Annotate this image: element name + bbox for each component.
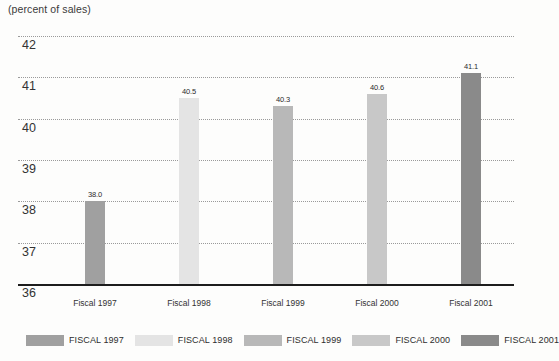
x-axis-line <box>18 284 514 286</box>
legend-swatch <box>135 335 173 346</box>
plot-area: 424140393837 38.040.540.340.641.1 36 <box>0 22 520 290</box>
chart-legend: FISCAL 1997FISCAL 1998FISCAL 1999FISCAL … <box>0 330 520 350</box>
bar[interactable] <box>461 73 481 284</box>
bar[interactable] <box>273 106 293 284</box>
bar-series: 38.040.540.340.641.1 <box>0 22 520 290</box>
legend-swatch <box>461 335 499 346</box>
category-label: Fiscal 2001 <box>449 298 492 308</box>
chart-title: (percent of sales) <box>8 3 91 15</box>
bar-value-label: 40.3 <box>276 95 290 104</box>
bar-value-label: 40.5 <box>182 87 196 96</box>
bar-slot: 38.0 <box>48 22 142 290</box>
legend-item[interactable]: FISCAL 2000 <box>352 335 450 346</box>
legend-item[interactable]: FISCAL 1997 <box>26 335 124 346</box>
bar[interactable] <box>85 201 105 284</box>
legend-label: FISCAL 2001 <box>504 335 559 345</box>
bar-slot: 40.5 <box>142 22 236 290</box>
category-label: Fiscal 1997 <box>73 298 116 308</box>
bar-slot: 40.3 <box>236 22 330 290</box>
category-label: Fiscal 1998 <box>167 298 210 308</box>
category-label: Fiscal 1999 <box>261 298 304 308</box>
legend-item[interactable]: FISCAL 1998 <box>135 335 233 346</box>
bar[interactable] <box>179 98 199 284</box>
bar-value-label: 38.0 <box>88 190 102 199</box>
category-label-slot: Fiscal 1998 <box>142 292 236 310</box>
legend-item[interactable]: FISCAL 2001 <box>461 335 559 346</box>
legend-label: FISCAL 1999 <box>287 335 342 345</box>
legend-label: FISCAL 1998 <box>178 335 233 345</box>
bar[interactable] <box>367 94 387 284</box>
bar-slot: 41.1 <box>424 22 518 290</box>
legend-swatch <box>244 335 282 346</box>
legend-label: FISCAL 2000 <box>395 335 450 345</box>
bar-slot: 40.6 <box>330 22 424 290</box>
bar-value-label: 40.6 <box>370 83 384 92</box>
category-label-slot: Fiscal 2001 <box>424 292 518 310</box>
legend-swatch <box>26 335 64 346</box>
category-label-slot: Fiscal 1997 <box>48 292 142 310</box>
legend-swatch <box>352 335 390 346</box>
legend-label: FISCAL 1997 <box>69 335 124 345</box>
legend-item[interactable]: FISCAL 1999 <box>244 335 342 346</box>
category-label-slot: Fiscal 2000 <box>330 292 424 310</box>
category-labels: Fiscal 1997Fiscal 1998Fiscal 1999Fiscal … <box>0 292 520 310</box>
category-label: Fiscal 2000 <box>355 298 398 308</box>
bar-value-label: 41.1 <box>464 62 478 71</box>
category-label-slot: Fiscal 1999 <box>236 292 330 310</box>
